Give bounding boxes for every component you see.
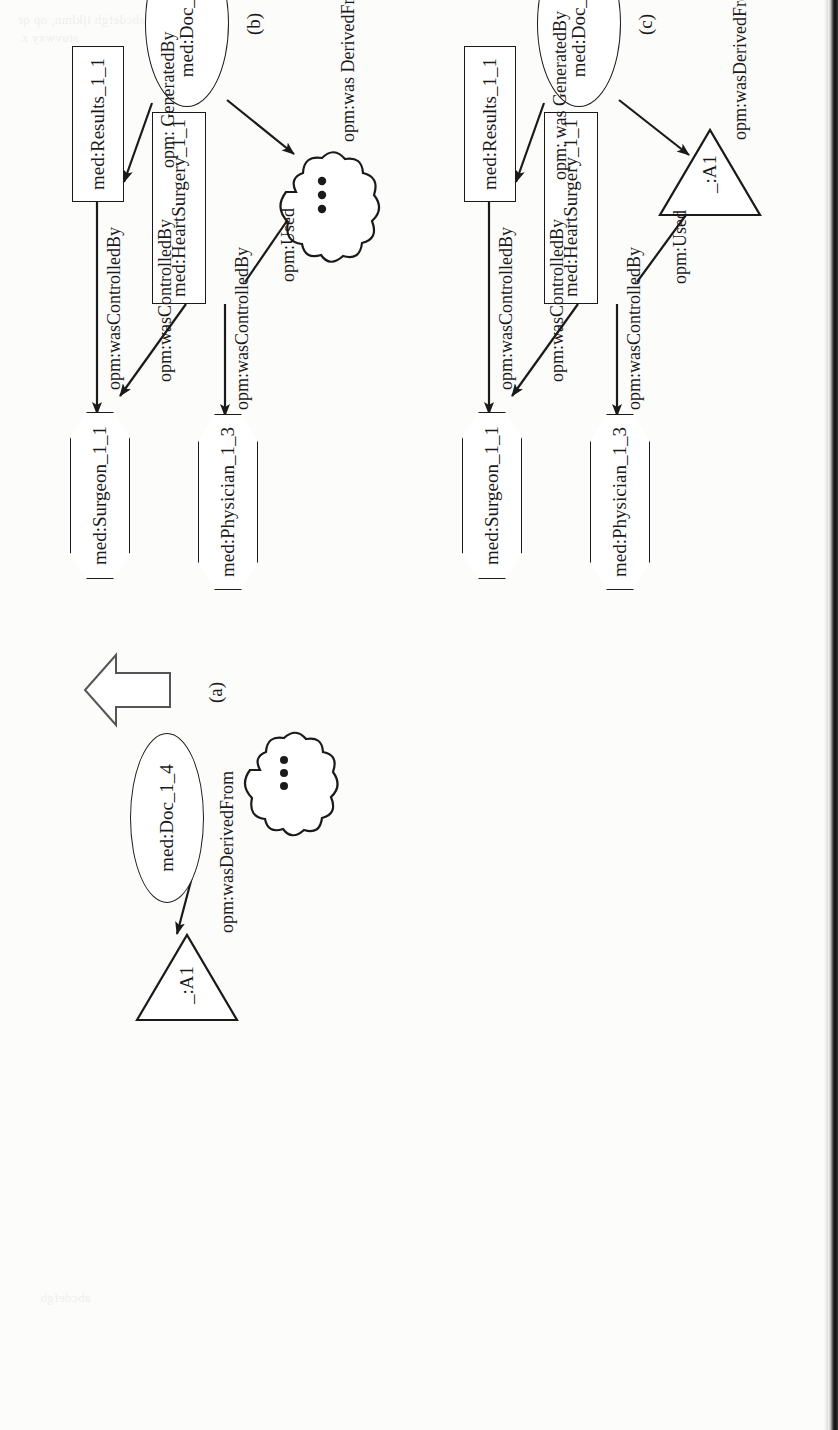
node-b-surgeon[interactable]: med:Surgeon_1_1 [70, 412, 130, 579]
node-c-physician[interactable]: med:Physician_1_3 [590, 414, 650, 590]
node-c-surgeon-label: med:Surgeon_1_1 [482, 426, 503, 565]
node-c-surgeon[interactable]: med:Surgeon_1_1 [462, 412, 522, 579]
node-c-doc-label: med:Doc_1_4 [569, 0, 590, 77]
edge-b-surgery-physician: opm:wasControlledBy [232, 247, 253, 410]
node-a-triangle-label: _:A1 [167, 953, 207, 1017]
edge-b-surgery-surgeon: opm:wasControlledBy [155, 219, 176, 382]
edge-c-doc-derived: opm:wasDerivedFrom [730, 0, 751, 140]
edge-c-surgery-surgeon: opm:wasControlledBy [547, 219, 568, 382]
edge-c-doc-generated: opm: was GeneratedBy [550, 11, 571, 180]
node-b-results-label: med:Results_1_1 [88, 58, 109, 190]
node-b-doc-label: med:Doc_1_4 [177, 0, 198, 77]
scan-binding-edge [828, 0, 838, 1430]
edge-b-doc-derived: opm:was DerivedFrom [338, 0, 359, 142]
edge-b-surgery-used: opm:Used [278, 208, 299, 282]
node-b-physician[interactable]: med:Physician_1_3 [198, 414, 258, 590]
node-b-results[interactable]: med:Results_1_1 [72, 46, 124, 202]
node-c-triangle-text: _:A1 [700, 155, 721, 193]
edge-b-doc-generated: opm: GeneratedBy [158, 32, 179, 168]
rotated-figure-wrapper: _:A1 med:Doc_1_4 opm:wasDerivedFrom (a) … [0, 0, 838, 1430]
edge-c-surgery-physician: opm:wasControlledBy [624, 247, 645, 410]
edge-b-results-surgeon: opm:wasControlledBy [104, 227, 125, 390]
connector-layer [0, 0, 838, 1430]
node-c-physician-label: med:Physician_1_3 [610, 427, 631, 577]
caption-c: (c) [635, 14, 657, 35]
node-c-results[interactable]: med:Results_1_1 [464, 46, 516, 202]
node-b-surgeon-label: med:Surgeon_1_1 [90, 426, 111, 565]
edge-a-derived-from: opm:wasDerivedFrom [217, 771, 238, 933]
node-c-results-label: med:Results_1_1 [480, 58, 501, 190]
scanned-page: abcdefgh ijklmn, op qr stuvwxy z. abcdef… [0, 0, 838, 1430]
node-c-triangle-label[interactable]: _:A1 [692, 146, 728, 202]
node-b-physician-label: med:Physician_1_3 [218, 427, 239, 577]
caption-b: (b) [243, 13, 265, 35]
edge-c-surgery-used: opm:Used [670, 210, 691, 284]
figure-canvas: _:A1 med:Doc_1_4 opm:wasDerivedFrom (a) … [0, 0, 838, 1430]
node-a-doc[interactable]: med:Doc_1_4 [130, 733, 204, 903]
caption-a: (a) [205, 682, 227, 703]
node-a-triangle-text: _:A1 [177, 966, 198, 1004]
edge-c-results-surgeon: opm:wasControlledBy [496, 227, 517, 390]
node-a-doc-label: med:Doc_1_4 [157, 764, 178, 872]
